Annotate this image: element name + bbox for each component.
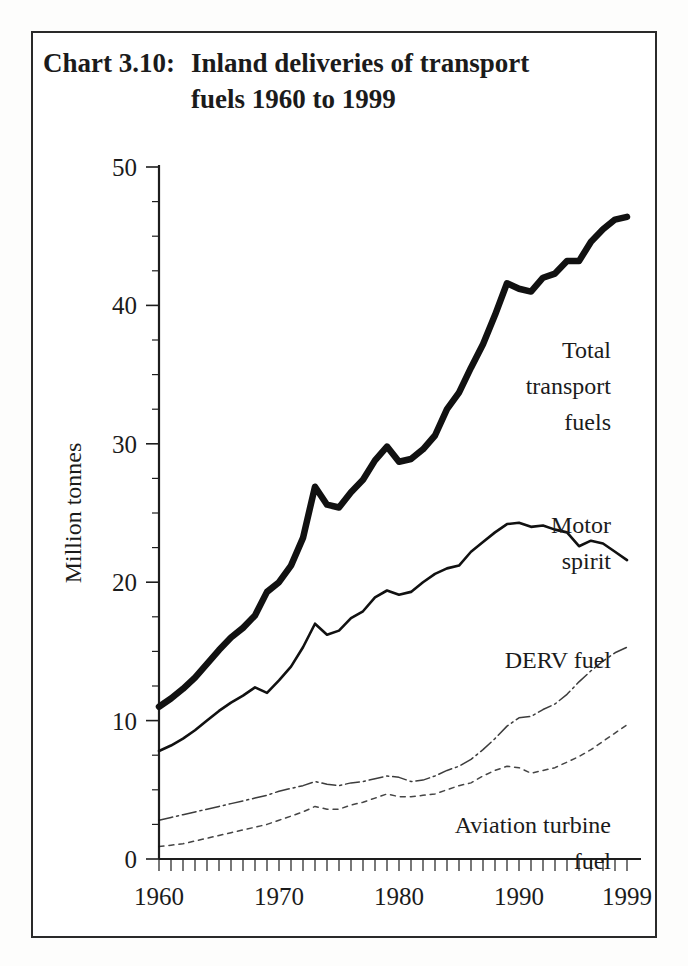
svg-text:Million tonnes: Million tonnes xyxy=(60,443,86,584)
line-chart: 01020304050 19601970198019901999 Million… xyxy=(33,33,659,940)
svg-text:1990: 1990 xyxy=(494,883,544,910)
plot-area: 01020304050 19601970198019901999 Million… xyxy=(33,33,659,940)
series-inline-labels: TotaltransportfuelsMotorspiritDERV fuelA… xyxy=(455,337,612,874)
svg-text:10: 10 xyxy=(112,708,137,735)
svg-text:40: 40 xyxy=(112,292,137,319)
svg-text:20: 20 xyxy=(112,569,137,596)
series-label: Total xyxy=(562,337,611,363)
svg-text:1999: 1999 xyxy=(602,883,652,910)
x-tick-labels: 19601970198019901999 xyxy=(134,883,652,910)
y-axis-title: Million tonnes xyxy=(60,443,86,584)
series-label: fuels xyxy=(564,409,611,435)
series-line xyxy=(159,647,627,820)
chart-page: Chart 3.10:Inland deliveries of transpor… xyxy=(0,0,688,966)
svg-text:30: 30 xyxy=(112,431,137,458)
svg-text:1960: 1960 xyxy=(134,883,184,910)
svg-text:1970: 1970 xyxy=(254,883,304,910)
svg-text:50: 50 xyxy=(112,154,137,181)
series-label: Motor xyxy=(551,512,611,538)
svg-text:1980: 1980 xyxy=(374,883,424,910)
series-label: transport xyxy=(526,373,612,399)
series-line xyxy=(159,217,627,707)
series-label: spirit xyxy=(562,548,612,574)
series-label: Aviation turbine xyxy=(455,812,611,838)
y-tick-labels: 01020304050 xyxy=(112,154,137,873)
series-label: fuel xyxy=(574,848,612,874)
series-label: DERV fuel xyxy=(505,647,612,673)
chart-frame: Chart 3.10:Inland deliveries of transpor… xyxy=(31,31,657,938)
svg-text:0: 0 xyxy=(125,846,138,873)
